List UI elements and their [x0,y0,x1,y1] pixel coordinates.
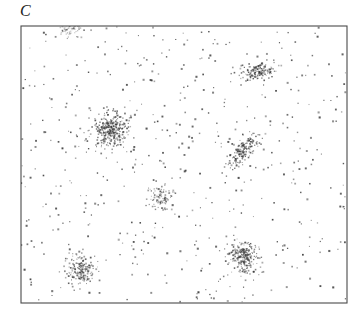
scatter-plot-canvas [0,0,362,311]
data-points-layer [20,18,346,303]
plot-frame-border [21,26,347,303]
scatter-figure-panel: C [0,0,362,311]
